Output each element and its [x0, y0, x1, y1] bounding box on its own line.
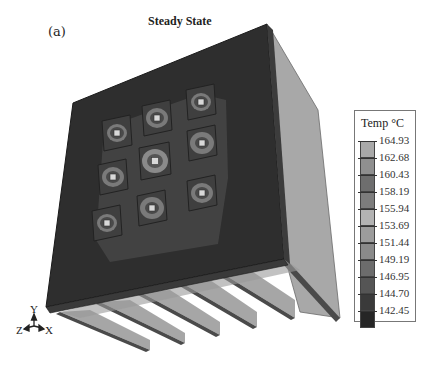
legend-swatch [360, 226, 375, 243]
legend-tick [358, 243, 377, 244]
legend-value: 146.95 [379, 270, 409, 282]
legend-swatch [360, 277, 375, 294]
chip [102, 115, 132, 151]
legend-tick [358, 192, 377, 193]
chip [186, 84, 216, 120]
legend-swatch [360, 260, 375, 277]
chip [142, 100, 172, 136]
legend-tick [358, 158, 377, 159]
chip [98, 159, 128, 195]
chip [187, 175, 217, 211]
legend-value: 151.44 [379, 236, 409, 248]
legend-swatch [360, 294, 375, 311]
legend-swatch [360, 192, 375, 209]
chip [92, 205, 122, 241]
legend-value: 144.70 [379, 287, 409, 299]
axis-x-label: X [45, 324, 53, 336]
legend-swatch [360, 175, 375, 192]
legend-value: 164.93 [379, 134, 409, 146]
chip [187, 125, 217, 161]
legend-value: 149.19 [379, 253, 409, 265]
legend-swatch [360, 311, 375, 328]
legend-entry: 142.45 [355, 311, 417, 328]
legend-tick [358, 175, 377, 176]
axis-triad [24, 314, 44, 331]
chip [137, 190, 167, 226]
legend-tick [358, 277, 377, 278]
legend-value: 153.69 [379, 219, 409, 231]
legend-tick [358, 141, 377, 142]
legend-swatch [360, 158, 375, 175]
legend-swatch [360, 243, 375, 260]
legend-value: 160.43 [379, 168, 409, 180]
legend-value: 142.45 [379, 304, 409, 316]
legend-value: 162.68 [379, 151, 409, 163]
legend-title: Temp °C [361, 116, 404, 131]
legend-swatch [360, 209, 375, 226]
chip [139, 142, 171, 180]
legend-tick [358, 311, 377, 312]
legend-tick [358, 294, 377, 295]
legend-swatch [360, 141, 375, 158]
temperature-legend: Temp °C 164.93162.68160.43158.19155.9415… [354, 110, 416, 322]
legend-tick [358, 260, 377, 261]
legend-value: 155.94 [379, 202, 409, 214]
axis-z-label: Z [16, 324, 23, 336]
legend-tick [358, 209, 377, 210]
legend-tick [358, 226, 377, 227]
legend-value: 158.19 [379, 185, 409, 197]
axis-y-label: Y [30, 303, 38, 315]
